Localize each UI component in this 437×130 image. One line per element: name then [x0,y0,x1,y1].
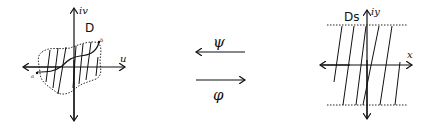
left-diagram: a b iv D u [23,5,126,121]
label-region-d: D [85,21,94,35]
conformal-map-diagram: a b iv D u ψ φ Ds iy x [0,0,437,130]
right-diagram: Ds iy x [320,6,413,119]
label-iy: iy [371,6,380,17]
label-iv: iv [79,5,88,16]
point-a [36,72,38,74]
label-x: x [407,49,413,60]
label-a: a [31,73,34,79]
label-psi: ψ [213,33,225,51]
label-u: u [120,53,126,64]
label-phi: φ [213,86,224,104]
label-region-ds: Ds [344,10,360,24]
curve-a-to-b [37,43,99,72]
maps: ψ φ [196,33,245,104]
label-b: b [100,37,103,43]
region-d-hatching [46,42,98,94]
